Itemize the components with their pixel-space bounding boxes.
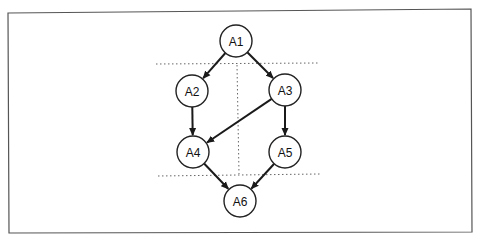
node-label: A3 <box>278 84 293 98</box>
node-a6: A6 <box>224 185 256 217</box>
node-label: A6 <box>233 195 248 209</box>
node-a1: A1 <box>220 25 252 57</box>
node-label: A5 <box>278 146 293 160</box>
node-a5: A5 <box>269 136 301 168</box>
node-label: A1 <box>229 35 244 49</box>
node-label: A2 <box>185 85 200 99</box>
node-a4: A4 <box>177 136 209 168</box>
dag-diagram: A1A2A3A4A5A6 <box>0 0 485 242</box>
node-a3: A3 <box>269 74 301 106</box>
node-a2: A2 <box>176 75 208 107</box>
node-label: A4 <box>186 146 201 160</box>
